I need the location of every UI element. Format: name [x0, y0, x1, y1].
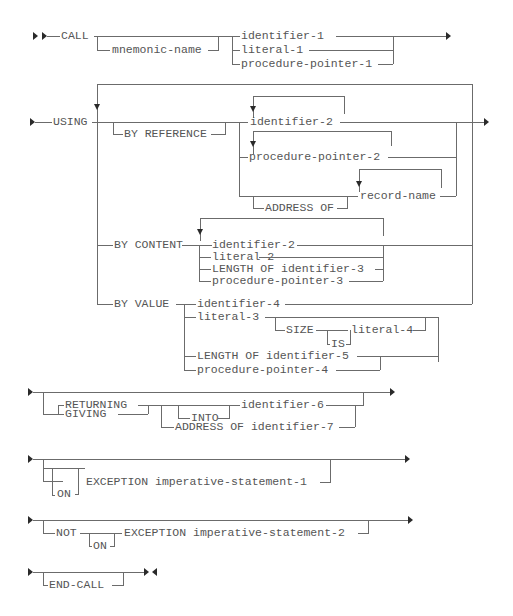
identifier-6: identifier-6	[241, 398, 324, 411]
length-of-identifier-5: LENGTH OF identifier-5	[197, 349, 349, 362]
on-keyword: ON	[57, 487, 71, 500]
call-keyword: CALL	[61, 29, 89, 42]
continue-arrow-icon	[28, 455, 33, 463]
mnemonic-name: mnemonic-name	[112, 43, 202, 56]
giving-keyword: GIVING	[65, 407, 107, 420]
continue-arrow-icon	[408, 516, 413, 524]
continue-arrow-icon	[28, 516, 33, 524]
size-keyword: SIZE	[286, 323, 314, 336]
end-arrow-icon	[144, 568, 149, 576]
continue-arrow-icon	[484, 118, 489, 126]
is-keyword: IS	[331, 337, 345, 350]
procedure-pointer-3: procedure-pointer-3	[212, 274, 343, 287]
record-name: record-name	[360, 189, 436, 202]
address-of-keyword: ADDRESS OF	[265, 201, 334, 214]
continue-arrow-icon	[405, 455, 410, 463]
continue-arrow-icon	[30, 118, 35, 126]
end-arrow-icon	[152, 568, 157, 576]
syntax-diagram: CALL mnemonic-name identifier-1 literal-…	[0, 0, 513, 616]
continue-arrow-icon	[390, 388, 395, 396]
by-value-keyword: BY VALUE	[114, 297, 169, 310]
end-call-keyword: END-CALL	[49, 578, 104, 591]
literal-3: literal-3	[197, 310, 259, 323]
repeat-arrow-icon	[94, 104, 100, 110]
identifier-2-ref: identifier-2	[250, 115, 333, 128]
continue-arrow-icon	[446, 32, 451, 40]
procedure-pointer-1: procedure-pointer-1	[241, 57, 372, 70]
returning-section: RETURNING GIVING INTO identifier-6 ADDRE…	[28, 388, 395, 433]
continue-arrow-icon	[28, 568, 33, 576]
on-exception-section: ON EXCEPTION imperative-statement-1	[28, 455, 410, 500]
repeat-arrow-icon	[250, 141, 256, 147]
call-section: CALL mnemonic-name identifier-1 literal-…	[33, 29, 451, 70]
using-keyword: USING	[53, 115, 88, 128]
repeat-arrow-icon	[250, 106, 256, 112]
using-section: USING BY REFERENCE identifier-2 procedur…	[30, 84, 489, 376]
repeat-arrow-icon	[356, 181, 362, 187]
identifier-1: identifier-1	[241, 29, 324, 42]
continue-arrow-icon	[28, 388, 33, 396]
procedure-pointer-4: procedure-pointer-4	[197, 363, 328, 376]
end-call-section: END-CALL	[28, 568, 157, 591]
procedure-pointer-2: procedure-pointer-2	[249, 150, 380, 163]
repeat-arrow-icon	[197, 229, 203, 235]
exception-imperative-statement-2: EXCEPTION imperative-statement-2	[124, 526, 345, 539]
start-arrow-icon	[33, 32, 38, 40]
by-content-keyword: BY CONTENT	[114, 238, 183, 251]
not-on-exception-section: NOT ON EXCEPTION imperative-statement-2	[28, 516, 413, 552]
literal-1: literal-1	[241, 43, 303, 56]
exception-imperative-statement-1: EXCEPTION imperative-statement-1	[86, 475, 307, 488]
identifier-4: identifier-4	[197, 297, 280, 310]
not-keyword: NOT	[56, 526, 77, 539]
on-keyword-2: ON	[93, 539, 107, 552]
literal-4: literal-4	[351, 323, 413, 336]
by-reference-keyword: BY REFERENCE	[124, 127, 207, 140]
address-of-identifier-7: ADDRESS OF identifier-7	[175, 420, 334, 433]
start-arrow-icon	[42, 32, 47, 40]
